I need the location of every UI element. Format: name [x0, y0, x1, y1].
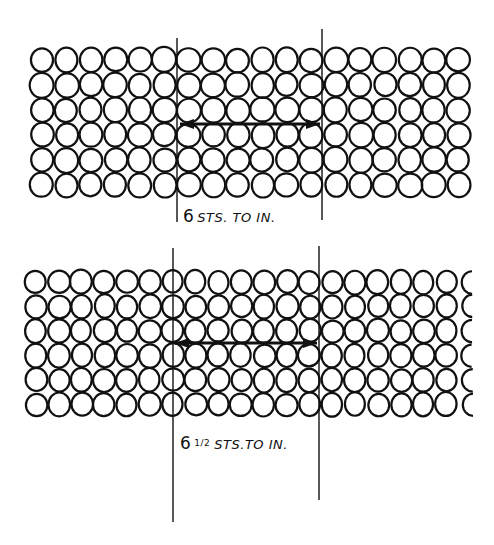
stitch-loop — [103, 73, 126, 97]
stitch-loop-partial — [462, 320, 472, 343]
stitch-loop — [153, 123, 176, 146]
stitch-loop — [391, 369, 412, 391]
stitch-loop — [177, 99, 201, 123]
stitch-loop — [447, 99, 470, 123]
stitch-loop — [276, 319, 297, 343]
stitch-loop — [390, 294, 411, 318]
stitch-loop — [322, 321, 344, 343]
stitch-loop — [299, 369, 320, 393]
stitch-loop — [30, 73, 54, 98]
stitch-loop — [344, 368, 365, 392]
stitch-loop — [413, 271, 433, 294]
stitch-loop — [413, 392, 433, 416]
stitch-loop — [253, 320, 274, 343]
stitch-loop — [348, 48, 371, 71]
stitch-grid — [30, 47, 471, 198]
stitch-loop — [202, 173, 225, 198]
stitch-loop — [25, 271, 46, 293]
stitch-loop — [276, 148, 298, 172]
stitch-loop — [368, 343, 388, 367]
stitch-loop — [251, 47, 273, 72]
stitch-loop — [276, 294, 298, 318]
stitch-loop — [230, 343, 250, 367]
stitch-loop — [202, 98, 226, 123]
stitch-loop — [55, 99, 77, 122]
stitch-loop — [368, 295, 388, 317]
stitch-loop — [367, 369, 388, 392]
stitch-loop — [349, 173, 371, 198]
stitch-loop — [275, 98, 299, 123]
stitch-loop — [300, 173, 322, 197]
stitch-loop — [254, 295, 274, 319]
stitch-loop-partial — [461, 345, 471, 367]
stitch-loop — [325, 173, 347, 197]
stitch-loop — [344, 344, 364, 368]
stitch-loop — [390, 344, 411, 367]
stitch-loop — [139, 294, 161, 318]
stitch-loop — [437, 294, 457, 317]
double-arrow-icon — [180, 119, 320, 129]
stitch-loop — [324, 147, 348, 172]
stitch-loop — [413, 295, 433, 317]
stitch-loop — [373, 99, 396, 122]
stitch-loop — [94, 319, 116, 342]
stitch-loop — [25, 344, 46, 368]
stitch-loop — [322, 368, 342, 391]
stitch-loop — [208, 295, 229, 318]
stitch-loop — [227, 149, 250, 172]
stitch-loop — [423, 73, 445, 98]
stitch-loop — [31, 123, 54, 147]
stitch-loop — [299, 148, 323, 173]
stitch-loop — [71, 319, 91, 342]
stitch-loop — [70, 270, 92, 294]
stitch-loop — [373, 48, 396, 72]
stitch-loop — [252, 173, 274, 197]
stitch-loop — [116, 394, 136, 417]
stitch-loop — [202, 123, 225, 146]
stitch-count: 6 — [180, 433, 191, 453]
stitch-loop — [230, 394, 252, 416]
stitch-loop — [413, 320, 435, 343]
stitch-loop — [398, 147, 421, 172]
stitch-loop — [95, 294, 115, 318]
stitch-loop — [56, 123, 78, 146]
stitch-loop — [128, 173, 151, 197]
stitch-loop — [49, 369, 69, 391]
stitch-loop — [139, 320, 161, 342]
stitch-loop — [161, 319, 183, 342]
stitch-loop — [116, 271, 138, 293]
stitch-loop — [176, 124, 200, 147]
stitch-loop — [254, 345, 276, 367]
stitch-loop — [448, 173, 471, 198]
stitch-loop — [231, 270, 252, 293]
gauge-label-top: 6STS. TO IN. — [183, 206, 276, 226]
stitch-loop — [129, 74, 151, 98]
stitch-loop — [422, 147, 445, 171]
stitch-loop — [202, 48, 225, 72]
stitch-loop — [154, 72, 176, 97]
stitch-loop — [208, 343, 228, 366]
stitch-loop — [202, 148, 225, 171]
stitch-loop — [71, 295, 91, 318]
stitch-loop-partial — [462, 369, 473, 392]
stitch-loop — [177, 74, 200, 98]
gauge-unit-text: STS. TO IN. — [197, 210, 275, 225]
stitch-loop — [72, 344, 92, 367]
stitch-loop — [71, 393, 93, 416]
stitch-loop — [399, 48, 422, 72]
stitch-loop — [422, 49, 445, 73]
gauge-diagram-6-stitches — [30, 29, 471, 222]
stitch-loop — [153, 149, 176, 172]
stitch-loop — [116, 344, 138, 367]
stitch-loop — [254, 369, 274, 393]
stitch-loop — [373, 148, 396, 171]
stitch-loop — [349, 123, 373, 147]
stitch-loop — [413, 368, 434, 392]
stitch-loop — [71, 368, 92, 392]
stitch-loop — [56, 174, 78, 198]
stitch-loop — [139, 368, 159, 392]
stitch-loop — [227, 123, 249, 147]
stitch-loop — [299, 271, 320, 294]
stitch-loop — [208, 393, 228, 416]
stitch-loop — [48, 296, 70, 319]
